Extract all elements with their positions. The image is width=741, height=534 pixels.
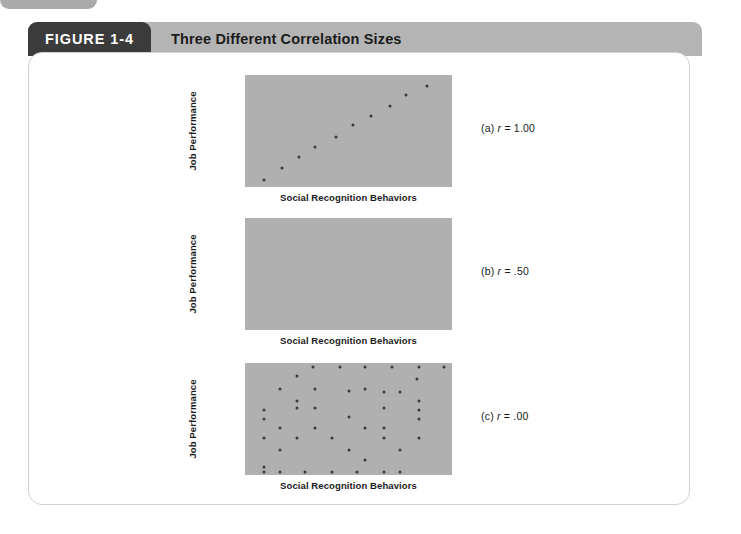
scatter-point: [399, 470, 402, 473]
figure-title: Three Different Correlation Sizes: [171, 22, 402, 56]
scatter-point: [339, 366, 342, 369]
scatter-point: [417, 366, 420, 369]
scatter-point: [335, 135, 338, 138]
scatter-point: [279, 387, 282, 390]
scatter-point: [295, 437, 298, 440]
scatter-point: [399, 449, 402, 452]
scatter-point: [262, 470, 265, 473]
scatter-point: [417, 418, 420, 421]
scatter-point: [262, 179, 265, 182]
caption-b-equals: =: [504, 265, 510, 277]
caption-a-value: 1.00: [514, 122, 535, 134]
y-axis-label-a: Job Performance: [184, 75, 200, 187]
scatter-panel-a: Job Performance Social Recognition Behav…: [215, 75, 635, 215]
figure-body: Job Performance Social Recognition Behav…: [28, 52, 690, 505]
scatter-point: [382, 437, 385, 440]
plot-area-a: [245, 75, 452, 187]
scatter-point: [347, 415, 350, 418]
scatter-point: [370, 115, 373, 118]
scatter-point: [382, 406, 385, 409]
scatter-point: [330, 470, 333, 473]
caption-a-symbol: r: [498, 122, 502, 134]
scatter-point: [417, 400, 420, 403]
x-axis-label-c: Social Recognition Behaviors: [245, 480, 452, 491]
scatter-point: [314, 145, 317, 148]
scatter-point: [417, 409, 420, 412]
scatter-point: [347, 449, 350, 452]
caption-a-prefix: (a): [481, 122, 494, 134]
scatter-point: [314, 426, 317, 429]
caption-c-prefix: (c): [481, 410, 494, 422]
caption-b-prefix: (b): [481, 265, 494, 277]
scatter-point: [262, 418, 265, 421]
scatter-point: [295, 406, 298, 409]
caption-b: (b) r = .50: [481, 265, 529, 277]
caption-a-equals: =: [504, 122, 510, 134]
caption-c: (c) r = .00: [481, 410, 528, 422]
scatter-point: [295, 375, 298, 378]
scatter-point: [279, 426, 282, 429]
figure-container: FIGURE 1-4 Three Different Correlation S…: [28, 22, 702, 507]
y-axis-label-b: Job Performance: [184, 218, 200, 330]
figure-header-bar: FIGURE 1-4 Three Different Correlation S…: [28, 22, 702, 56]
scatter-point: [415, 377, 418, 380]
scatter-point: [405, 94, 408, 97]
caption-a: (a) r = 1.00: [481, 122, 535, 134]
scatter-point: [355, 470, 358, 473]
scatter-point: [382, 426, 385, 429]
scatter-point: [426, 85, 429, 88]
scatter-point: [417, 437, 420, 440]
scatter-point: [442, 366, 445, 369]
scatter-point: [262, 437, 265, 440]
x-axis-label-b: Social Recognition Behaviors: [245, 335, 452, 346]
scatter-point: [262, 466, 265, 469]
scatter-point: [382, 470, 385, 473]
scatter-point: [351, 124, 354, 127]
plot-area-b: [245, 218, 452, 330]
scatter-point: [364, 426, 367, 429]
scatter-point: [281, 166, 284, 169]
caption-c-symbol: r: [497, 410, 501, 422]
scatter-point: [364, 459, 367, 462]
scatter-point: [262, 409, 265, 412]
caption-b-value: .50: [514, 265, 529, 277]
scatter-point: [364, 366, 367, 369]
caption-c-equals: =: [504, 410, 510, 422]
scatter-point: [347, 390, 350, 393]
scatter-point: [390, 366, 393, 369]
scatter-point: [388, 105, 391, 108]
caption-c-value: .00: [513, 410, 528, 422]
scatter-point: [297, 155, 300, 158]
scatter-point: [399, 391, 402, 394]
scatter-point: [314, 387, 317, 390]
scatter-point: [314, 406, 317, 409]
x-axis-label-a: Social Recognition Behaviors: [245, 192, 452, 203]
scatter-panel-b: Job Performance Social Recognition Behav…: [215, 218, 635, 358]
page-corner-tab: [0, 0, 97, 9]
scatter-point: [279, 470, 282, 473]
y-axis-label-c: Job Performance: [184, 363, 200, 475]
scatter-point: [364, 387, 367, 390]
scatter-point: [295, 400, 298, 403]
scatter-point: [279, 449, 282, 452]
plot-area-c: [245, 363, 452, 475]
figure-number-tag: FIGURE 1-4: [28, 22, 151, 56]
scatter-point: [312, 366, 315, 369]
scatter-point: [330, 437, 333, 440]
scatter-panel-c: Job Performance Social Recognition Behav…: [215, 363, 635, 503]
scatter-point: [382, 391, 385, 394]
scatter-point: [304, 470, 307, 473]
caption-b-symbol: r: [498, 265, 502, 277]
